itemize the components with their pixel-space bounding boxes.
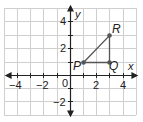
coordinate-grid — [0, 0, 143, 122]
origin-label: 0 — [62, 78, 68, 89]
y-tick-label: 2 — [60, 43, 66, 54]
y-tick-label: −2 — [53, 97, 66, 108]
point-p — [81, 60, 86, 65]
x-tick-label: −2 — [36, 80, 49, 91]
y-axis-up-arrow-icon — [68, 6, 73, 11]
point-p-label: P — [73, 60, 81, 72]
x-tick-label: 2 — [93, 80, 99, 91]
point-q-label: Q — [109, 60, 118, 72]
y-axis-label: y — [75, 9, 81, 20]
x-axis-left-arrow-icon — [6, 73, 11, 78]
x-tick-label: 4 — [120, 80, 126, 91]
coordinate-plane-figure: −4 −2 2 4 0 4 2 −2 y x P Q R — [0, 0, 143, 122]
x-axis-label: x — [128, 61, 134, 72]
x-tick-label: −4 — [9, 80, 22, 91]
y-tick-label: 4 — [60, 16, 66, 27]
point-r-label: R — [112, 23, 121, 35]
